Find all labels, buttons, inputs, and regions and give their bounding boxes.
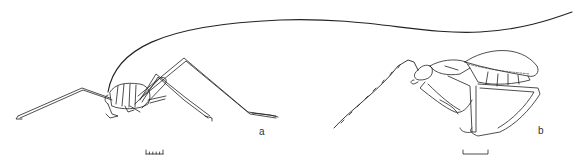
antenna-a bbox=[108, 12, 572, 92]
panel-label-b: b bbox=[538, 126, 544, 136]
panel-label-a: a bbox=[259, 127, 265, 137]
insect-a bbox=[16, 58, 278, 121]
scale-bar-a bbox=[146, 150, 163, 154]
figure: a b bbox=[0, 0, 577, 164]
insect-b bbox=[334, 51, 540, 137]
scale-bar-b bbox=[463, 150, 488, 154]
figure-drawing bbox=[0, 0, 577, 164]
